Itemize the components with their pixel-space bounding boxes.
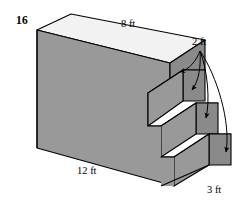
step2-occluder: [148, 126, 161, 157]
problem-number: 16: [16, 15, 28, 27]
step1-side-face: [183, 70, 205, 101]
figure-container: 16 8 ft 2 ft 12 ft 3 ft: [0, 0, 247, 214]
stepped-solid-illustration: [0, 0, 247, 214]
dimension-label-length: 12 ft: [77, 166, 97, 177]
step3-side-face: [209, 134, 231, 165]
dimension-label-riser: 2 ft: [192, 37, 206, 48]
step2-side-face: [196, 103, 218, 134]
dimension-label-tread: 3 ft: [207, 185, 221, 196]
dimension-label-top-depth: 8 ft: [121, 19, 135, 30]
